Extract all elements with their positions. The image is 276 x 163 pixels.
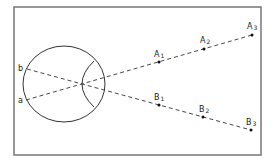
- point-B3: [250, 129, 253, 132]
- label-B3: B3: [246, 118, 257, 127]
- label-a: a: [18, 96, 23, 105]
- diagram-frame: [14, 7, 261, 155]
- ray-b-to-B3: [27, 69, 251, 130]
- eye-ray-diagram: b a A1 A2 A3 B1 B2 B3: [0, 0, 276, 163]
- lens-arc: [82, 61, 94, 107]
- object-points: [158, 34, 254, 132]
- point-A1: [158, 61, 161, 64]
- label-A1: A1: [154, 50, 164, 59]
- eyeball-outline: [23, 46, 105, 122]
- label-A3: A3: [247, 22, 257, 31]
- point-B1: [158, 104, 161, 107]
- label-A2: A2: [200, 36, 210, 45]
- label-B1: B1: [154, 93, 165, 102]
- point-A2: [203, 48, 206, 51]
- label-b: b: [18, 64, 23, 73]
- point-B2: [202, 116, 205, 119]
- label-B2: B2: [199, 105, 210, 114]
- ray-a-to-A3: [26, 35, 252, 100]
- point-A3: [251, 34, 254, 37]
